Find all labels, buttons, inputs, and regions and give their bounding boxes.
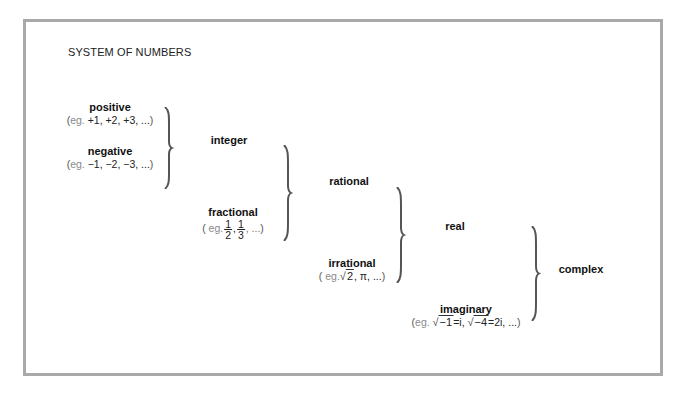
eg-abbrev: eg. [70,158,85,170]
node-example: (eg. √−1=i, √−4=2i, ...) [412,316,521,329]
example-rest: , π, ... [354,270,382,282]
node-irrational: irrational ( eg.√2, π, ...) [319,257,385,283]
node-rational: rational [329,175,369,188]
diagram-title: SYSTEM OF NUMBERS [68,46,191,58]
equals-i: =i, [453,316,467,328]
close-paren: ) [517,316,521,328]
example-values: −1, −2, −3, ... [88,158,150,170]
close-paren: ) [150,114,154,126]
node-example: (eg. −1, −2, −3, ...) [67,158,154,171]
radicand: −1 [439,315,454,328]
denominator: 3 [237,230,245,240]
node-positive: positive (eg. +1, +2, +3, ...) [67,101,154,127]
fraction-one-half: 12 [224,219,232,240]
brace-icon [163,107,175,189]
brace-icon [282,145,294,241]
fraction-one-third: 13 [237,219,245,240]
node-example: ( eg.√2, π, ...) [319,270,385,283]
eg-abbrev: eg. [325,270,340,282]
node-label: imaginary [412,303,521,316]
node-complex: complex [559,263,604,276]
node-label: rational [329,175,369,188]
eg-abbrev: eg. [415,316,430,328]
denominator: 2 [224,230,232,240]
close-paren: ) [260,222,264,234]
eg-abbrev: eg. [70,114,85,126]
separator: , [233,222,236,234]
close-paren: ) [382,270,386,282]
node-fractional: fractional ( eg.12,13, ...) [202,206,264,240]
radicand: 2 [346,269,354,282]
equals-2i: =2i, ... [488,316,517,328]
eg-abbrev: eg. [209,222,224,234]
open-paren: ( [202,222,206,234]
node-example: (eg. +1, +2, +3, ...) [67,114,154,127]
node-imaginary: imaginary (eg. √−1=i, √−4=2i, ...) [412,303,521,329]
brace-icon [530,226,542,321]
node-integer: integer [211,134,248,147]
brace-icon [395,187,407,283]
square-root-two: √2 [340,270,354,283]
radicand: −4 [474,315,489,328]
node-label: positive [67,101,154,114]
node-label: negative [67,145,154,158]
node-real: real [445,220,465,233]
square-root-minus-four: √−4 [467,316,488,329]
node-negative: negative (eg. −1, −2, −3, ...) [67,145,154,171]
node-example: ( eg.12,13, ...) [202,219,264,240]
square-root-minus-one: √−1 [433,316,454,329]
open-paren: ( [319,270,323,282]
example-values: +1, +2, +3, ... [88,114,150,126]
node-label: real [445,220,465,233]
diagram-frame [23,19,663,376]
node-label: complex [559,263,604,276]
node-label: integer [211,134,248,147]
close-paren: ) [150,158,154,170]
node-label: fractional [202,206,264,219]
trailing-ellipsis: , ... [246,222,261,234]
